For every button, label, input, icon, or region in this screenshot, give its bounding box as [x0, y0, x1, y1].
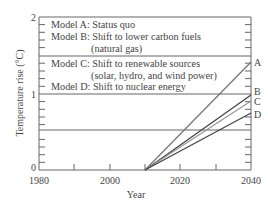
- end-label-d: D: [254, 109, 261, 120]
- end-label-a: A: [254, 57, 262, 68]
- y-axis-label: Temperature rise (°C): [14, 49, 26, 136]
- x-axis-label: Year: [127, 189, 146, 200]
- x-tick-label-2040: 2040: [241, 175, 261, 186]
- legend-model-d: Model D: Shift to nuclear energy: [51, 81, 187, 92]
- series-line-b: [145, 95, 251, 170]
- y-tick-label-0: 0: [31, 162, 36, 173]
- series-line-d: [145, 113, 251, 170]
- legend-model-c: Model C: Shift to renewable sources: [51, 58, 200, 69]
- x-tick-label-1980: 1980: [29, 175, 49, 186]
- end-label-c: C: [254, 96, 261, 107]
- y-ticks-right: [245, 25, 251, 163]
- legend-model-b: Model B: Shift to lower carbon fuels: [51, 31, 201, 42]
- y-ticks-left: [39, 25, 45, 163]
- x-tick-label-2020: 2020: [170, 175, 190, 186]
- chart: A B C D Model A: Status quo Model B: Shi…: [0, 0, 268, 205]
- x-tick-label-2000: 2000: [100, 175, 120, 186]
- y-tick-label-2: 2: [31, 12, 36, 23]
- y-tick-label-1: 1: [31, 89, 36, 100]
- legend-model-b-sub: (natural gas): [91, 43, 142, 55]
- legend-model-a: Model A: Status quo: [51, 19, 135, 30]
- series-line-c: [145, 101, 251, 170]
